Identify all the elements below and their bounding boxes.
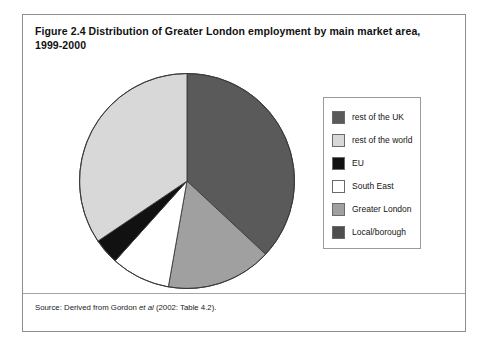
legend-swatch-icon [332,203,345,216]
legend-item-label: EU [352,158,364,169]
legend-swatch-icon [332,134,345,147]
legend-item-rest-of-the-uk[interactable]: rest of the UK [332,106,418,129]
source-suffix: (2002: Table 4.2). [154,303,217,312]
legend-swatch-icon [332,111,345,124]
source-italic: et al [139,303,154,312]
legend-item-label: rest of the UK [352,112,404,123]
legend-swatch-icon [332,157,345,170]
legend-item-label: Greater London [352,204,412,215]
legend-item-rest-of-the-world[interactable]: rest of the world [332,129,418,152]
pie-chart-svg [77,71,297,291]
legend-item-south-east[interactable]: South East [332,175,418,198]
legend-item-label: South East [352,181,394,192]
figure-title: Figure 2.4 Distribution of Greater Londo… [35,24,445,52]
legend-list: rest of the UK rest of the world EU Sout… [332,106,418,244]
source-divider [23,293,465,294]
legend-item-eu[interactable]: EU [332,152,418,175]
source-prefix: Source: Derived from Gordon [35,303,139,312]
legend-item-label: rest of the world [352,135,412,146]
legend-item-local-borough[interactable]: Local/borough [332,221,418,244]
legend-swatch-icon [332,180,345,193]
pie-chart [77,71,297,291]
legend-item-greater-london[interactable]: Greater London [332,198,418,221]
pie-slices [80,74,295,289]
legend-item-label: Local/borough [352,227,406,238]
figure-container: Figure 2.4 Distribution of Greater Londo… [22,14,466,332]
legend-swatch-icon [332,226,345,239]
legend: rest of the UK rest of the world EU Sout… [323,97,421,249]
source-note: Source: Derived from Gordon et al (2002:… [35,303,216,312]
